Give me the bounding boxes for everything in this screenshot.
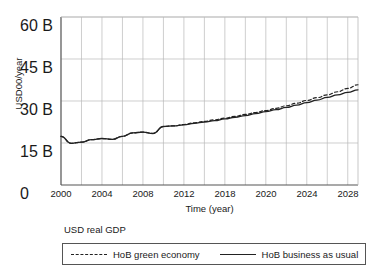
data-series-group [61, 85, 358, 144]
legend-label: HoB business as usual [262, 249, 359, 260]
legend-title: USD real GDP [64, 224, 126, 235]
plot-area [0, 0, 373, 273]
legend-entry-business-as-usual[interactable]: HoB business as usual [220, 249, 359, 260]
solid-line-icon [220, 250, 256, 259]
legend-box: HoB green economy HoB business as usual [62, 243, 366, 265]
legend-label: HoB green economy [113, 249, 200, 260]
series-line-green-economy [61, 85, 358, 144]
legend-entry-green-economy[interactable]: HoB green economy [71, 249, 200, 260]
dashed-line-icon [71, 250, 107, 259]
chart-figure: USD00/year 0 15 B 30 B 45 B 60 B 2000 20… [0, 0, 373, 273]
